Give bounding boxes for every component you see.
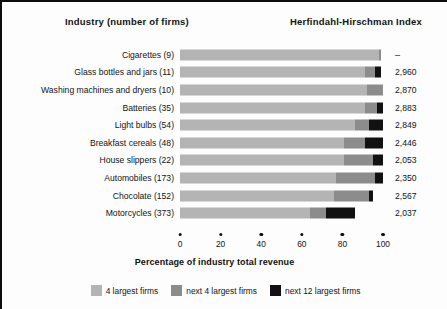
bar-segment-3 [373,155,383,166]
x-axis-tick-label: 20 [216,239,225,249]
bar-segment-3 [375,172,383,183]
bar-segment-3 [326,208,354,219]
x-axis-tick-label: 100 [376,239,390,249]
stacked-bar [180,155,383,166]
bar-segment-1 [180,137,344,148]
chart-row: Batteries (35)2,883 [2,99,447,117]
legend-label: 4 largest firms [106,286,159,296]
x-axis-tick: 40 [257,233,266,249]
chart-row: Motorcycles (373)2,037 [2,204,447,222]
hhi-value: 2,350 [395,173,439,183]
hhi-value: 2,849 [395,120,439,130]
bar-segment-1 [180,172,336,183]
chart-row: Light bulbs (54)2,849 [2,116,447,134]
legend-item: next 12 largest firms [270,285,360,296]
row-label: Motorcycles (373) [2,208,174,218]
stacked-bar [180,190,383,201]
row-label: Breakfast cereals (48) [2,138,174,148]
x-axis-tick: 60 [297,233,306,249]
hhi-value: 2,446 [395,138,439,148]
bar-segment-2 [310,208,326,219]
x-axis-tick-label: 40 [257,239,266,249]
bar-segment-1 [180,120,355,131]
bar-segment-1 [180,67,365,78]
legend-label: next 12 largest firms [285,286,360,296]
chart-row: Washing machines and dryers (10)2,870 [2,81,447,99]
hhi-value: 2,960 [395,67,439,77]
row-label: Batteries (35) [2,103,174,113]
legend-swatch-s1 [91,285,102,296]
tick-dot-icon [178,233,181,236]
legend-item: 4 largest firms [91,285,159,296]
bar-segment-2 [379,49,381,60]
x-axis-tick: 0 [178,233,183,249]
bar-segment-1 [180,49,379,60]
column-header-industry: Industry (number of firms) [65,16,189,27]
bar-segment-1 [180,190,334,201]
x-axis-tick: 100 [376,233,390,249]
chart-row: Chocolate (152)2,567 [2,187,447,205]
row-label: Light bulbs (54) [2,120,174,130]
column-header-hhi: Herfindahl-Hirschman Index [290,16,422,27]
stacked-bar [180,120,383,131]
chart-legend: 4 largest firmsnext 4 largest firmsnext … [2,285,447,296]
bar-segment-1 [180,208,310,219]
chart-row: Automobiles (173)2,350 [2,169,447,187]
bar-segment-2 [344,155,372,166]
tick-dot-icon [259,233,262,236]
bar-segment-3 [369,120,383,131]
stacked-bar [180,49,383,60]
x-axis-title: Percentage of industry total revenue [2,257,447,267]
bar-segment-2 [344,137,364,148]
hhi-value: 2,053 [395,155,439,165]
chart-row: Cigarettes (9)– [2,46,447,64]
x-axis-tick-label: 80 [338,239,347,249]
row-label: House slippers (22) [2,155,174,165]
bar-segment-1 [180,155,344,166]
bar-segment-3 [369,190,373,201]
bar-segment-1 [180,102,365,113]
x-axis-title-text: Percentage of industry total revenue [135,257,295,267]
legend-item: next 4 largest firms [171,285,257,296]
row-label: Glass bottles and jars (11) [2,67,174,77]
stacked-bar [180,172,383,183]
bar-segment-2 [365,67,375,78]
x-axis-tick: 20 [216,233,225,249]
row-label: Automobiles (173) [2,173,174,183]
hhi-value: 2,883 [395,103,439,113]
chart-frame: Industry (number of firms) Herfindahl-Hi… [0,0,447,309]
legend-label: next 4 largest firms [186,286,257,296]
stacked-bar [180,137,383,148]
row-label: Cigarettes (9) [2,50,174,60]
x-axis-tick-label: 60 [297,239,306,249]
tick-dot-icon [219,233,222,236]
legend-swatch-s2 [171,285,182,296]
hhi-value: 2,037 [395,208,439,218]
tick-dot-icon [381,233,384,236]
row-label: Washing machines and dryers (10) [2,85,174,95]
stacked-bar [180,102,383,113]
bar-segment-3 [377,102,383,113]
tick-dot-icon [341,233,344,236]
tick-dot-icon [300,233,303,236]
bar-segment-1 [180,84,367,95]
bar-segment-2 [355,120,369,131]
hhi-value: – [395,50,439,60]
bar-segment-3 [375,67,381,78]
stacked-bar [180,84,383,95]
bar-segment-2 [365,102,377,113]
x-axis-tick: 80 [338,233,347,249]
chart-row: Breakfast cereals (48)2,446 [2,134,447,152]
bar-segment-2 [367,84,383,95]
bar-segment-3 [365,137,383,148]
x-axis-tick-label: 0 [178,239,183,249]
chart-row: House slippers (22)2,053 [2,152,447,170]
stacked-bar [180,67,383,78]
legend-swatch-s3 [270,285,281,296]
bar-segment-2 [334,190,369,201]
chart-row: Glass bottles and jars (11)2,960 [2,64,447,82]
bar-rows: Cigarettes (9)–Glass bottles and jars (1… [2,46,447,222]
x-axis: 020406080100 [180,233,383,259]
stacked-bar [180,208,383,219]
hhi-value: 2,567 [395,191,439,201]
